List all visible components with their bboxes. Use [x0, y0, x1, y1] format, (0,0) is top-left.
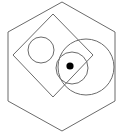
canvas-background: [0, 0, 121, 133]
center-dot: [66, 62, 73, 69]
geometric-figure: [0, 0, 121, 133]
